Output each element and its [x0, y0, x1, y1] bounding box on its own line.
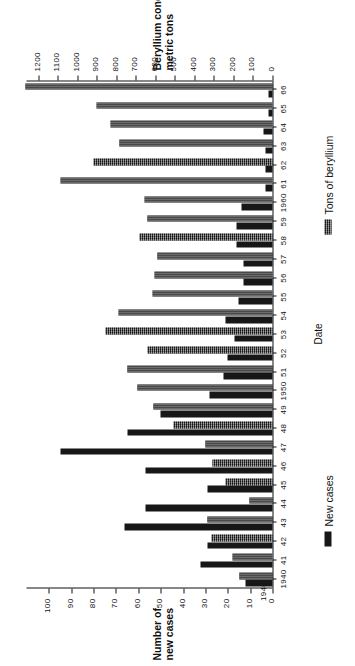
tick-date [272, 540, 276, 541]
tick-label-new-cases: 40 [177, 598, 186, 624]
bar-new-cases [236, 241, 272, 248]
bar-group [26, 290, 272, 304]
bar-tons-of-beryllium [157, 252, 272, 259]
tick-label-date: 66 [278, 72, 287, 106]
bar-new-cases [234, 335, 272, 342]
tick-label-new-cases: 30 [199, 598, 208, 624]
tick-date [272, 502, 276, 503]
bar-tons-of-beryllium [110, 120, 272, 127]
tick-new-cases [48, 588, 49, 593]
tick-beryllium [233, 75, 234, 80]
tick-date [272, 578, 276, 579]
tick-date [272, 465, 276, 466]
bar-tons-of-beryllium [105, 327, 272, 334]
bar-tons-of-beryllium [147, 346, 272, 353]
tick-label-new-cases: 10 [244, 598, 253, 624]
bar-new-cases [265, 147, 272, 154]
bar-group [26, 83, 272, 97]
tick-date [272, 220, 276, 221]
tick-date [272, 145, 276, 146]
bar-new-cases [268, 90, 272, 97]
bar-new-cases [207, 485, 272, 492]
tick-label-beryllium: 1000 [71, 52, 80, 71]
bar-tons-of-beryllium [119, 139, 272, 146]
tick-label-beryllium: 600 [149, 56, 158, 71]
tick-label-beryllium: 500 [168, 56, 177, 71]
tick-beryllium [213, 75, 214, 80]
tick-date [272, 201, 276, 202]
axis-title-date: Date [312, 323, 324, 344]
tick-date [272, 408, 276, 409]
tick-date [272, 295, 276, 296]
tick-date [272, 484, 276, 485]
tick-date [272, 352, 276, 353]
bar-new-cases [145, 467, 272, 474]
bar-new-cases [209, 391, 272, 398]
bar-group [26, 346, 272, 360]
legend-swatch-new-cases [324, 531, 331, 546]
bar-group [26, 215, 272, 229]
bar-tons-of-beryllium [118, 309, 272, 316]
beryllium-figure: Number of new cases Beryllium concentrat… [0, 0, 355, 666]
tick-date [272, 427, 276, 428]
bar-group [26, 309, 272, 323]
legend-label-tons-of-beryllium: Tons of beryllium [322, 135, 334, 214]
bar-tons-of-beryllium [60, 177, 272, 184]
bar-group [26, 365, 272, 379]
bar-group [26, 177, 272, 191]
bar-new-cases [268, 109, 272, 116]
bar-tons-of-beryllium [154, 271, 272, 278]
tick-date [272, 446, 276, 447]
tick-beryllium [194, 75, 195, 80]
tick-date [272, 559, 276, 560]
tick-beryllium [116, 75, 117, 80]
bar-tons-of-beryllium [139, 233, 272, 240]
bar-new-cases [243, 260, 272, 267]
tick-label-new-cases: 60 [132, 598, 141, 624]
tick-label-new-cases: 0 [266, 598, 275, 624]
tick-label-beryllium: 900 [90, 56, 99, 71]
bar-new-cases [60, 448, 272, 455]
bar-group [26, 196, 272, 210]
bar-new-cases [127, 429, 272, 436]
tick-date [272, 182, 276, 183]
tick-new-cases [227, 588, 228, 593]
bar-group [26, 120, 272, 134]
tick-beryllium [174, 75, 175, 80]
bar-new-cases [160, 410, 272, 417]
plot-area: 0102030405060708090100 01002003004005006… [26, 80, 272, 588]
tick-beryllium [272, 75, 273, 80]
tick-date [272, 333, 276, 334]
bar-group [26, 403, 272, 417]
bar-new-cases [227, 354, 272, 361]
tick-label-beryllium: 200 [227, 56, 236, 71]
tick-new-cases [183, 588, 184, 593]
axis-line-new-cases [26, 587, 272, 588]
bar-tons-of-beryllium [153, 403, 272, 410]
tick-label-new-cases: 20 [221, 598, 230, 624]
tick-new-cases [272, 588, 273, 593]
bar-tons-of-beryllium [205, 440, 272, 447]
bar-group [26, 497, 272, 511]
tick-date [272, 314, 276, 315]
tick-date [272, 239, 276, 240]
tick-label-new-cases: 80 [87, 598, 96, 624]
tick-beryllium [252, 75, 253, 80]
tick-new-cases [205, 588, 206, 593]
tick-new-cases [138, 588, 139, 593]
tick-date [272, 258, 276, 259]
bar-new-cases [243, 278, 272, 285]
tick-beryllium [57, 75, 58, 80]
tick-label-beryllium: 800 [110, 56, 119, 71]
bar-group [26, 440, 272, 454]
bar-new-cases [265, 165, 272, 172]
tick-label-beryllium: 300 [207, 56, 216, 71]
legend-swatch-tons-of-beryllium [324, 219, 331, 234]
tick-label-beryllium: 100 [246, 56, 255, 71]
bar-group [26, 534, 272, 548]
tick-label-beryllium: 1100 [51, 52, 60, 71]
bar-tons-of-beryllium [93, 158, 272, 165]
tick-beryllium [155, 75, 156, 80]
tick-date [272, 521, 276, 522]
bar-new-cases [207, 542, 272, 549]
